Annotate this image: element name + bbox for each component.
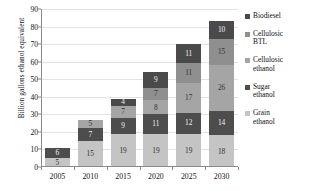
legend-item[interactable]: Cellulosic BTL — [245, 30, 309, 47]
bar-segment-label: 26 — [218, 84, 225, 91]
legend-item[interactable]: Biodiesel — [245, 12, 309, 21]
x-axis-tick-mark — [205, 167, 206, 170]
bar-segment-label: 7 — [154, 90, 158, 97]
bar-segment[interactable]: 19 — [143, 134, 168, 167]
bar-segment-label: 7 — [121, 108, 125, 115]
bar-segment[interactable]: 11 — [176, 44, 201, 63]
legend-swatch-icon — [245, 32, 250, 37]
bar-segment[interactable]: 9 — [143, 72, 168, 88]
y-axis-tick-label: 30 — [30, 110, 38, 119]
bar-segment[interactable]: 11 — [143, 114, 168, 133]
bar-segment[interactable]: 15 — [78, 141, 103, 167]
y-axis-tick-label: 50 — [30, 75, 38, 84]
bar-segment[interactable]: 14 — [209, 111, 234, 136]
bar-segment[interactable]: 7 — [111, 106, 136, 118]
stacked-bar-chart: Billion gallons ethanol equivalent 01020… — [0, 0, 309, 191]
bar-segment[interactable]: 9 — [111, 118, 136, 134]
x-axis-tick-label: 2005 — [50, 172, 66, 181]
bar-2005[interactable]: 56 — [45, 148, 70, 167]
bar-2030[interactable]: 1814261510 — [209, 21, 234, 167]
bar-segment-label: 9 — [121, 122, 125, 129]
x-axis-tick-mark — [74, 167, 75, 170]
x-axis-tick-label: 2030 — [214, 172, 230, 181]
chart-legend: BiodieselCellulosic BTLCellulosic ethano… — [245, 12, 309, 136]
bar-2010[interactable]: 1575 — [78, 120, 103, 167]
bar-segment[interactable]: 6 — [45, 148, 70, 159]
x-axis-tick-label: 2020 — [148, 172, 164, 181]
y-axis-tick-label: 80 — [30, 22, 38, 31]
bar-segment[interactable]: 12 — [176, 113, 201, 134]
bar-2025[interactable]: 1912171111 — [176, 44, 201, 167]
legend-label: Cellulosic BTL — [253, 30, 283, 47]
legend-label: Sugar ethanol — [253, 83, 275, 100]
bar-segment[interactable]: 19 — [111, 134, 136, 167]
bar-segment-label: 8 — [154, 104, 158, 111]
bar-2020[interactable]: 1911879 — [143, 72, 168, 167]
bar-segment[interactable]: 15 — [209, 39, 234, 65]
bar-segment[interactable]: 5 — [78, 120, 103, 129]
bar-segment[interactable]: 4 — [111, 99, 136, 106]
bar-segment-label: 9 — [154, 76, 158, 83]
bar-segment-label: 11 — [152, 120, 159, 127]
bar-segment-label: 12 — [185, 119, 192, 126]
legend-label: Cellulosic ethanol — [253, 56, 283, 73]
bar-segment-label: 17 — [185, 94, 192, 101]
bar-segment-label: 11 — [185, 69, 192, 76]
plot-area: 0102030405060708090 56157519974191187919… — [41, 9, 238, 167]
gridline — [41, 9, 238, 10]
x-axis-tick-mark — [140, 167, 141, 170]
bar-segment-label: 11 — [185, 50, 192, 57]
y-axis-tick-label: 40 — [30, 92, 38, 101]
bar-segment-label: 10 — [218, 26, 225, 33]
y-axis-tick-label: 90 — [30, 5, 38, 14]
legend-swatch-icon — [245, 14, 250, 19]
bar-segment[interactable]: 17 — [176, 83, 201, 113]
x-axis-tick-label: 2010 — [82, 172, 98, 181]
y-axis-tick-label: 60 — [30, 57, 38, 66]
bar-segment-label: 15 — [218, 48, 225, 55]
bar-segment-label: 7 — [88, 131, 92, 138]
bar-segment-label: 19 — [185, 147, 192, 154]
bar-segment-label: 14 — [218, 119, 225, 126]
x-axis-tick-mark — [238, 167, 239, 170]
legend-item[interactable]: Sugar ethanol — [245, 83, 309, 100]
x-axis-tick-label: 2025 — [181, 172, 197, 181]
legend-swatch-icon — [245, 85, 250, 90]
legend-item[interactable]: Grain ethanol — [245, 109, 309, 126]
x-axis-tick-mark — [107, 167, 108, 170]
x-axis-tick-mark — [41, 167, 42, 170]
legend-swatch-icon — [245, 111, 250, 116]
bar-segment-label: 5 — [88, 120, 92, 127]
bar-segment[interactable]: 18 — [209, 135, 234, 167]
y-axis-title: Billion gallons ethanol equivalent — [18, 8, 26, 128]
bar-segment[interactable]: 19 — [176, 134, 201, 167]
bar-segment[interactable]: 8 — [143, 100, 168, 114]
y-axis-tick-label: 20 — [30, 127, 38, 136]
bar-2015[interactable]: 19974 — [111, 99, 136, 167]
x-axis-tick-mark — [172, 167, 173, 170]
bar-segment-label: 19 — [119, 147, 126, 154]
legend-swatch-icon — [245, 58, 250, 63]
bar-segment[interactable]: 11 — [176, 63, 201, 82]
bar-segment-label: 4 — [121, 99, 125, 106]
x-axis-line — [41, 166, 238, 167]
bar-segment-label: 15 — [87, 150, 94, 157]
bar-segment[interactable]: 26 — [209, 65, 234, 111]
legend-item[interactable]: Cellulosic ethanol — [245, 56, 309, 73]
bar-segment[interactable]: 7 — [78, 128, 103, 140]
bar-segment-label: 19 — [152, 147, 159, 154]
y-axis-tick-label: 10 — [30, 145, 38, 154]
x-axis-tick-label: 2015 — [115, 172, 131, 181]
y-axis-line — [41, 9, 42, 167]
bar-segment[interactable]: 10 — [209, 21, 234, 39]
legend-label: Biodiesel — [253, 12, 281, 21]
bar-segment-label: 6 — [56, 149, 60, 156]
y-axis-tick-label: 70 — [30, 40, 38, 49]
legend-label: Grain ethanol — [253, 109, 275, 126]
bar-segment[interactable]: 7 — [143, 88, 168, 100]
bar-segment-label: 18 — [218, 148, 225, 155]
plot-frame: 0102030405060708090 56157519974191187919… — [41, 9, 238, 167]
